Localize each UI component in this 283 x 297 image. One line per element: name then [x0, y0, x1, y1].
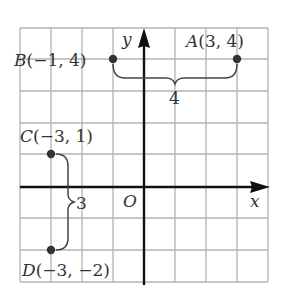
- point-a: [233, 55, 241, 63]
- point-c: [47, 150, 55, 158]
- point-c-label: C(−3, 1): [20, 126, 93, 146]
- point-c-name: C: [20, 126, 33, 146]
- point-d-coords: (−3, −2): [36, 260, 110, 280]
- point-d-name: D: [21, 260, 36, 280]
- point-a-name: A: [184, 31, 198, 51]
- point-b: [109, 55, 117, 63]
- coordinate-plane: y x O 4 3 A(3, 4) B(−1, 4) C(−3, 1) D(−3…: [0, 0, 283, 297]
- y-axis-arrow-icon: [138, 28, 150, 48]
- point-d: [47, 246, 55, 254]
- origin-label: O: [123, 191, 137, 211]
- point-b-label: B(−1, 4): [13, 50, 86, 70]
- y-axis-label: y: [121, 29, 132, 49]
- point-a-label: A(3, 4): [184, 31, 244, 51]
- y-axis: [138, 28, 150, 285]
- brace-cd-label: 3: [76, 193, 87, 213]
- point-b-coords: (−1, 4): [27, 50, 87, 70]
- brace-ba-label: 4: [169, 88, 180, 108]
- point-b-name: B: [13, 50, 27, 70]
- point-a-coords: (3, 4): [198, 31, 244, 51]
- point-d-label: D(−3, −2): [21, 260, 110, 280]
- x-axis-label: x: [250, 191, 260, 211]
- point-c-coords: (−3, 1): [33, 126, 93, 146]
- brace-cd: [56, 154, 74, 250]
